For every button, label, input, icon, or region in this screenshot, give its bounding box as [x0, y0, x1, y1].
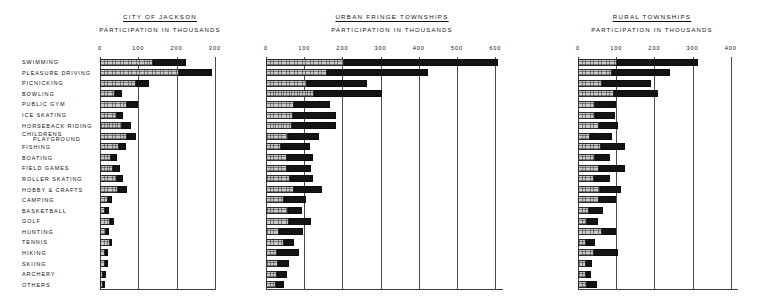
bar-segment-light: [266, 207, 288, 214]
bar-row: [266, 57, 503, 68]
bar-segment-dark: [595, 112, 616, 119]
chart-subtitle-city-of-jackson: PARTICIPATION IN THOUSANDS: [40, 27, 280, 33]
x-tick-label-0: 0: [98, 45, 102, 51]
bar-row: [266, 280, 503, 291]
bar-segment-dark: [599, 196, 616, 203]
bar-row: [578, 227, 738, 238]
bar-row: [578, 237, 738, 248]
bar-row: [100, 205, 215, 216]
bar-segment-dark: [586, 239, 594, 246]
bar-segment-dark: [105, 260, 108, 267]
bar-segment-dark: [284, 196, 305, 203]
bar-segment-light: [100, 175, 117, 182]
bar-segment-dark: [589, 207, 603, 214]
bar-row: [266, 227, 503, 238]
bar-row: [266, 89, 503, 100]
bar-row: [100, 195, 215, 206]
bar-segment-dark: [587, 281, 597, 288]
bar-row: [100, 216, 215, 227]
bar-segment-dark: [136, 80, 148, 87]
bar-segment-dark: [118, 186, 126, 193]
bar-segment-light: [578, 196, 599, 203]
row-label-childrens-playground: CHILDRENSPLAYGROUND: [22, 131, 96, 142]
bar-segment-dark: [599, 165, 624, 172]
bar-segment-dark: [595, 101, 616, 108]
bar-segment-light: [266, 260, 278, 267]
bar-row: [266, 131, 503, 142]
row-label-picnicking: PICNICKING: [22, 78, 96, 89]
row-label-swimming: SWIMMING: [22, 57, 96, 68]
bar-segment-dark: [284, 239, 295, 246]
bar-row: [100, 152, 215, 163]
bar-segment-light: [266, 90, 314, 97]
row-label-boating: BOATING: [22, 153, 96, 164]
bar-segment-dark: [599, 122, 618, 129]
bar-segment-light: [578, 133, 590, 140]
bar-segment-dark: [278, 260, 289, 267]
x-tick-label-100: 100: [610, 45, 622, 51]
chart-title-rural-townships: RURAL TOWNSHIPS: [532, 13, 761, 20]
bar-row: [266, 216, 503, 227]
bar-segment-light: [578, 80, 602, 87]
bar-segment-dark: [327, 69, 427, 76]
bar-row: [100, 110, 215, 121]
bar-segment-light: [100, 165, 113, 172]
bar-segment-dark: [277, 249, 298, 256]
bar-segment-light: [266, 218, 289, 225]
bar-segment-light: [100, 143, 119, 150]
bar-segment-light: [578, 154, 595, 161]
bar-segment-light: [266, 186, 294, 193]
bar-segment-light: [578, 101, 595, 108]
bar-segment-light: [100, 122, 122, 129]
bar-segment-light: [578, 112, 595, 119]
bar-segment-light: [266, 239, 284, 246]
bar-segment-light: [266, 154, 287, 161]
bar-segment-dark: [590, 133, 612, 140]
x-tick-label-300: 300: [375, 45, 387, 51]
bar-row: [100, 142, 215, 153]
x-tick-label-600: 600: [489, 45, 501, 51]
bar-segment-light: [578, 186, 600, 193]
bar-row: [266, 110, 503, 121]
chart-panel-urban-fringe-townships: 0100200300400500600: [266, 57, 503, 290]
bar-row: [100, 184, 215, 195]
bar-segment-light: [578, 281, 587, 288]
bar-segment-dark: [601, 143, 625, 150]
bar-segment-dark: [105, 207, 108, 214]
bar-segment-light: [578, 90, 614, 97]
bar-row: [578, 110, 738, 121]
bar-segment-dark: [612, 69, 670, 76]
bar-row: [578, 184, 738, 195]
bar-row: [266, 174, 503, 185]
x-tick-label-100: 100: [132, 45, 144, 51]
row-label-hunting: HUNTING: [22, 227, 96, 238]
row-label-public-gym: PUBLIC GYM: [22, 99, 96, 110]
bar-row: [100, 269, 215, 280]
bar-row: [578, 269, 738, 280]
bar-segment-dark: [127, 133, 137, 140]
chart-panel-city-of-jackson: 0100200300: [100, 57, 215, 290]
bar-row: [578, 280, 738, 291]
x-tick-label-200: 200: [336, 45, 348, 51]
x-tick-label-400: 400: [413, 45, 425, 51]
bar-row: [578, 89, 738, 100]
bar-segment-light: [266, 196, 284, 203]
bar-segment-dark: [179, 69, 212, 76]
bar-segment-dark: [287, 154, 313, 161]
bar-segment-light: [578, 218, 587, 225]
row-label-bowling: BOWLING: [22, 89, 96, 100]
row-label-archery: ARCHERY: [22, 269, 96, 280]
bar-segment-light: [266, 281, 276, 288]
row-label-ice-skating: ICE SKATING: [22, 110, 96, 121]
bar-segment-light: [100, 59, 153, 66]
figure-root: CITY OF JACKSON PARTICIPATION IN THOUSAN…: [0, 0, 761, 305]
bar-row: [578, 121, 738, 132]
bar-row: [266, 152, 503, 163]
bar-segment-light: [578, 59, 617, 66]
row-label-pleasure-driving: PLEASURE DRIVING: [22, 68, 96, 79]
bar-segment-light: [266, 101, 294, 108]
bar-row: [100, 131, 215, 142]
bar-segment-dark: [294, 186, 322, 193]
chart-subtitle-urban-fringe-townships: PARTICIPATION IN THOUSANDS: [272, 27, 512, 33]
bar-segment-dark: [289, 218, 311, 225]
